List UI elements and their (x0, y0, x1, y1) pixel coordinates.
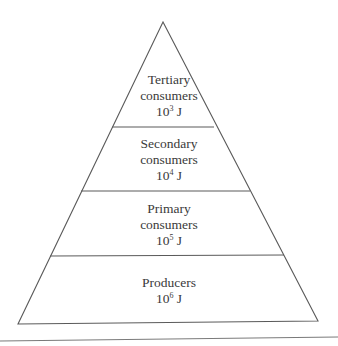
level-name-line1: Tertiary (109, 72, 229, 88)
level-name-line2: consumers (109, 217, 229, 233)
energy-value: 104 J (109, 168, 229, 184)
energy-value: 106 J (109, 291, 229, 307)
level-tertiary-consumers: Tertiary consumers 103 J (109, 72, 229, 120)
level-secondary-consumers: Secondary consumers 104 J (109, 136, 229, 184)
page-bottom-rule (0, 337, 338, 341)
level-primary-consumers: Primary consumers 105 J (109, 201, 229, 249)
level-name-line2: consumers (109, 88, 229, 104)
level-name-line1: Primary (109, 201, 229, 217)
energy-value: 105 J (109, 233, 229, 249)
level-name-line1: Producers (109, 275, 229, 291)
divider-primary-producers (50, 255, 284, 256)
level-name-line2: consumers (109, 152, 229, 168)
energy-value: 103 J (109, 104, 229, 120)
level-producers: Producers 106 J (109, 275, 229, 307)
level-name-line1: Secondary (109, 136, 229, 152)
